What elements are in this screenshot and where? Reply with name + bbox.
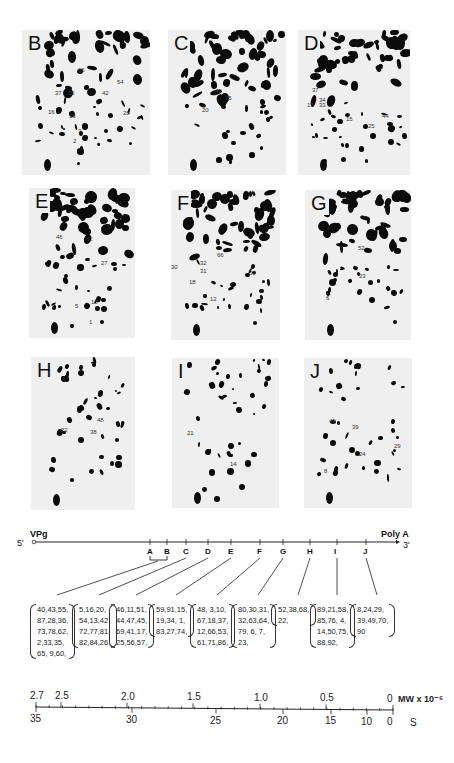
three-prime-label: 3' — [403, 540, 410, 550]
spot-list-line: 69,41,17, — [116, 626, 147, 637]
spot-list-e: 59,91,15,19,34, 1,83,27,74, — [156, 604, 187, 637]
spot-list-line: 87,28,36, — [37, 615, 68, 626]
spot-list-line: 2,33,35, — [37, 637, 68, 648]
spot-list-line: 67,18,37, — [197, 615, 228, 626]
connector-lines — [57, 558, 377, 595]
spot-list-line: 89,21,58, — [317, 604, 348, 615]
spot-list-line: 46,11,51, — [116, 604, 147, 615]
map-marker-b: B — [164, 547, 170, 556]
spot-list-f: 48, 3,10,67,18,37,12,66,53,61,71,86, — [197, 604, 228, 648]
s-tick-label: 25 — [210, 715, 222, 726]
spot-list-line: 54,13,42, — [79, 615, 110, 626]
spot-list-i: 89,21,58,85,76, 4,14,50,75,88,92, — [317, 604, 348, 648]
spot-list-line: 12,66,53, — [197, 626, 228, 637]
map-marker-j: J — [363, 547, 367, 556]
genome-line — [32, 540, 400, 544]
spot-list-line: 90 — [357, 626, 388, 637]
mw-sedimentation-scale: 2.72.52.01.51.00.503530252015100 — [30, 690, 393, 727]
spot-list-line: 79, 6, 7, — [238, 626, 269, 637]
spot-list-line: 40,43,55, — [37, 604, 68, 615]
vpg-label: VPg — [30, 529, 48, 539]
mw-tick-label: 0.5 — [320, 692, 334, 703]
five-prime-label: 5' — [17, 538, 24, 548]
map-marker-c: C — [183, 547, 189, 556]
spot-list-line: 80,30,31, — [238, 604, 269, 615]
spot-list-line: 83,27,74, — [156, 626, 187, 637]
ab-bracket — [150, 556, 167, 560]
mw-tick-label: 1.0 — [254, 692, 268, 703]
mw-tick-label: 2.5 — [55, 690, 69, 701]
spot-list-g: 80,30,31,32,63,64,79, 6, 7,23, — [238, 604, 269, 648]
s-tick-label: 35 — [30, 713, 42, 724]
spot-list-line: 22, — [278, 615, 309, 626]
spot-list-line: 39,49,70, — [357, 615, 388, 626]
spot-list-line: 59,91,15, — [156, 604, 187, 615]
spot-list-line: 19,34, 1, — [156, 615, 187, 626]
mw-tick-label: 2.7 — [30, 690, 44, 701]
mw-tick-label: 2.0 — [121, 691, 135, 702]
spot-list-h: 52,38,68,22, — [278, 604, 309, 626]
spot-list-line: 5,16,20, — [79, 604, 110, 615]
s-tick-label: 15 — [325, 715, 337, 726]
spot-list-line: 23, — [238, 637, 269, 648]
s-tick-label: 30 — [126, 714, 138, 725]
spot-list-line: 73,78,62, — [37, 626, 68, 637]
poly-a-label: Poly A — [381, 529, 409, 539]
map-marker-a: A — [147, 547, 153, 556]
map-marker-f: F — [257, 547, 262, 556]
spot-list-c: 5,16,20,54,13,42,72,77,81,82,84,26, — [79, 604, 110, 648]
mw-axis-label: MW x 10⁻⁶ — [398, 694, 443, 704]
spot-list-line: 82,84,26, — [79, 637, 110, 648]
map-marker-i: I — [334, 547, 336, 556]
spot-list-line: 72,77,81, — [79, 626, 110, 637]
spot-list-line: 65, 9,60, — [37, 648, 68, 659]
spot-list-line: 48, 3,10, — [197, 604, 228, 615]
spot-list-line: 85,76, 4, — [317, 615, 348, 626]
spot-list-line: 14,50,75, — [317, 626, 348, 637]
spot-list-line: 61,71,86, — [197, 637, 228, 648]
spot-list-a-b: 40,43,55,87,28,36,73,78,62,2,33,35,65, 9… — [37, 604, 68, 659]
map-marker-g: G — [280, 547, 286, 556]
map-marker-e: E — [228, 547, 234, 556]
map-marker-h: H — [307, 547, 313, 556]
s-tick-label: 20 — [277, 715, 289, 726]
spot-list-line: 32,63,64, — [238, 615, 269, 626]
s-tick-label: 0 — [387, 716, 393, 727]
spot-list-line: 88,92, — [317, 637, 348, 648]
s-axis-label: S — [410, 717, 417, 728]
spot-list-line: 44,47,45, — [116, 615, 147, 626]
spot-list-j: 8,24,29,39,49,70,90 — [357, 604, 388, 637]
s-tick-label: 10 — [361, 716, 373, 727]
spot-list-line: 8,24,29, — [357, 604, 388, 615]
mw-tick-label: 0 — [387, 693, 393, 704]
mw-tick-label: 1.5 — [187, 691, 201, 702]
spot-list-line: 25,56,57, — [116, 637, 147, 648]
spot-list-line: 52,38,68, — [278, 604, 309, 615]
map-marker-d: D — [205, 547, 211, 556]
spot-list-d: 46,11,51,44,47,45,69,41,17,25,56,57, — [116, 604, 147, 648]
